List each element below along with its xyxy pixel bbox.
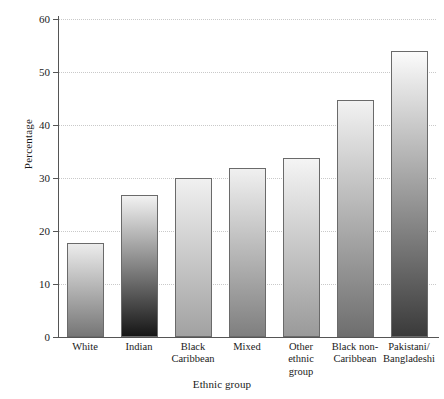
gridline — [59, 19, 436, 20]
x-tick-label: Otherethnicgroup — [274, 341, 328, 378]
y-axis-title: Percentage — [22, 94, 34, 194]
x-tick-label-line: group — [274, 366, 328, 378]
y-tick-mark — [53, 19, 58, 20]
y-tick-mark — [53, 125, 58, 126]
bar — [337, 100, 374, 337]
x-tick-label: Indian — [112, 341, 166, 353]
x-tick-label-line: Black — [166, 341, 220, 353]
x-tick-label-line: White — [58, 341, 112, 353]
x-tick-label: Black non-Caribbean — [328, 341, 382, 366]
x-axis-line — [57, 337, 439, 338]
y-tick-label: 30 — [39, 173, 50, 184]
gridline — [59, 72, 436, 73]
y-tick-label: 50 — [39, 67, 50, 78]
y-tick-mark — [53, 337, 58, 338]
bar — [391, 51, 428, 337]
x-tick-label: BlackCaribbean — [166, 341, 220, 366]
x-axis-title: Ethnic group — [0, 378, 444, 390]
y-tick-label: 40 — [39, 120, 50, 131]
x-tick-label-line: Pakistani/ — [382, 341, 436, 353]
bar — [175, 178, 212, 337]
x-tick-label: Mixed — [220, 341, 274, 353]
x-tick-label-line: Caribbean — [166, 353, 220, 365]
x-tick-label-line: Caribbean — [328, 353, 382, 365]
x-tick-label-line: Bangladeshi — [382, 353, 436, 365]
bar — [121, 195, 158, 337]
y-tick-mark — [53, 231, 58, 232]
y-tick-label: 60 — [39, 14, 50, 25]
gridline — [59, 125, 436, 126]
bar — [283, 158, 320, 337]
x-tick-label-line: ethnic — [274, 353, 328, 365]
plot-area: 0102030405060 — [58, 19, 436, 337]
y-axis-line — [58, 16, 59, 338]
y-tick-label: 10 — [39, 279, 50, 290]
x-tick-label: Pakistani/Bangladeshi — [382, 341, 436, 366]
x-tick-label-line: Indian — [112, 341, 166, 353]
x-tick-label-line: Other — [274, 341, 328, 353]
x-tick-label: White — [58, 341, 112, 353]
bar — [229, 168, 266, 337]
y-tick-mark — [53, 72, 58, 73]
x-tick-label-line: Black non- — [328, 341, 382, 353]
x-tick-label-line: Mixed — [220, 341, 274, 353]
bar — [67, 243, 104, 337]
y-tick-mark — [53, 284, 58, 285]
bar-chart: Percentage 0102030405060 WhiteIndianBlac… — [0, 0, 444, 399]
y-tick-label: 0 — [45, 332, 51, 343]
y-tick-label: 20 — [39, 226, 50, 237]
y-tick-mark — [53, 178, 58, 179]
